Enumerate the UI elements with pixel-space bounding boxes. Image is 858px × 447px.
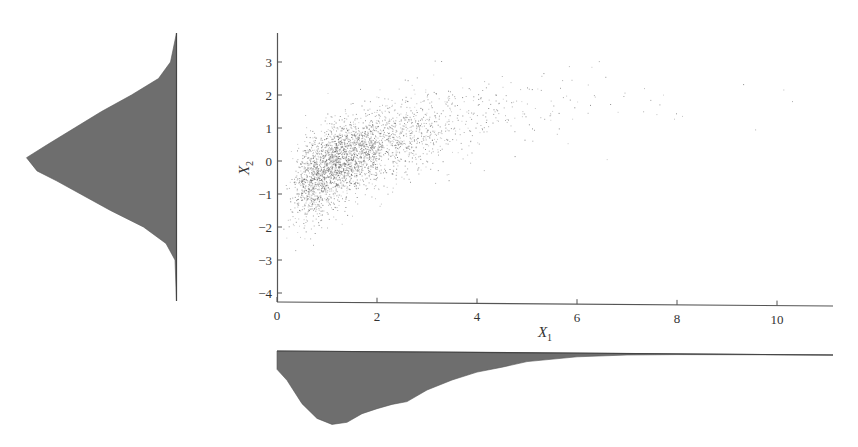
y-tick-label: −2: [258, 220, 272, 235]
marginal-density-x2: [27, 33, 177, 301]
x-axis-title: X1: [537, 324, 552, 343]
y-axis-ticks: 3210−1−2−3−4: [258, 55, 282, 301]
x-tick-label: 10: [771, 312, 784, 327]
x-tick-label: 4: [474, 309, 481, 324]
scatter-plot: 3210−1−2−3−4 0246810 X1 X2: [236, 33, 833, 343]
scatter-points: [283, 61, 793, 252]
y-axis-title: X2: [236, 161, 255, 176]
scatter-with-marginals-chart: 3210−1−2−3−4 0246810 X1 X2: [0, 0, 858, 447]
y-tick-label: 2: [266, 88, 273, 103]
y-tick-label: −1: [258, 187, 272, 202]
y-tick-label: 0: [266, 154, 273, 169]
x-tick-label: 2: [374, 309, 381, 324]
y-tick-label: −3: [258, 253, 272, 268]
marginal-density-x1: [277, 351, 833, 424]
x-tick-label: 8: [674, 311, 681, 326]
x1-density-area: [277, 351, 833, 424]
y-tick-label: 1: [266, 121, 273, 136]
x-axis-line: [277, 302, 833, 306]
x2-density-area: [27, 33, 177, 301]
x-axis-ticks: 0246810: [274, 297, 784, 327]
y-tick-label: −4: [258, 286, 272, 301]
y-tick-label: 3: [266, 55, 273, 70]
x-tick-label: 0: [274, 308, 281, 323]
x-tick-label: 6: [574, 310, 581, 325]
